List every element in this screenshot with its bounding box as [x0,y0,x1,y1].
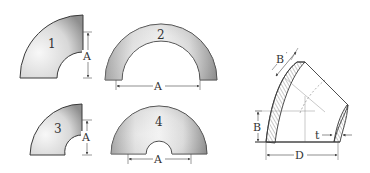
figure-4-number: 4 [155,115,163,129]
figure-5-t-label: t [315,129,320,142]
pipe-elbow-diagram: 1 A 2 A 3 A [0,0,370,173]
figure-2-dimension-A: A [116,80,200,93]
figure-1-A-label: A [82,50,92,63]
figure-5-B-top-label: B [276,53,284,66]
figure-3-elbow-90-short: 3 A [30,104,93,155]
figure-4-A-label: A [153,153,163,166]
figure-1-number: 1 [48,37,56,51]
figure-5-B-left-label: B [253,121,261,134]
figure-5-elbow-45-section: B B t D [252,48,352,162]
figure-2-return-180-long: 2 A [105,24,217,93]
figure-3-A-label: A [81,131,91,144]
figure-4-dimension-A: A [128,153,191,166]
figure-2-A-label: A [153,80,163,93]
figure-2-number: 2 [157,28,165,42]
figure-5-dimension-D: D [266,142,338,162]
figure-5-D-label: D [295,149,304,162]
figure-1-dimension-A: A [82,32,94,78]
figure-4-return-180-short: 4 A [111,106,207,166]
figure-3-number: 3 [54,122,62,136]
figure-3-dimension-A: A [81,120,93,155]
figure-5-dimension-B-left: B [252,111,266,142]
figure-1-elbow-90-long: 1 A [20,15,94,78]
